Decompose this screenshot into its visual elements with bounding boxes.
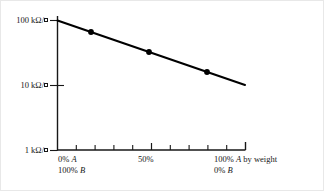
data-point bbox=[146, 49, 152, 55]
x-axis-label-right: 100% A by weight 0% B bbox=[214, 154, 291, 176]
data-point bbox=[204, 69, 210, 75]
x-axis-label-right-line1: 100% A by weight bbox=[214, 154, 291, 165]
x-axis-label-left-line1: 0% A bbox=[58, 154, 85, 165]
x-axis-label-left-line2: 100% B bbox=[58, 165, 85, 176]
chart-screenshot: 100 kΩ/ 10 kΩ/ 1 kΩ/ bbox=[0, 0, 324, 191]
x-axis-label-right-line2: 0% B bbox=[214, 165, 291, 176]
x-tick-marks bbox=[76, 142, 245, 150]
x-axis-label-mid: 50% bbox=[138, 154, 154, 164]
data-point bbox=[88, 29, 94, 35]
x-axis-label-left: 0% A 100% B bbox=[58, 154, 85, 176]
data-point-markers bbox=[88, 29, 210, 75]
